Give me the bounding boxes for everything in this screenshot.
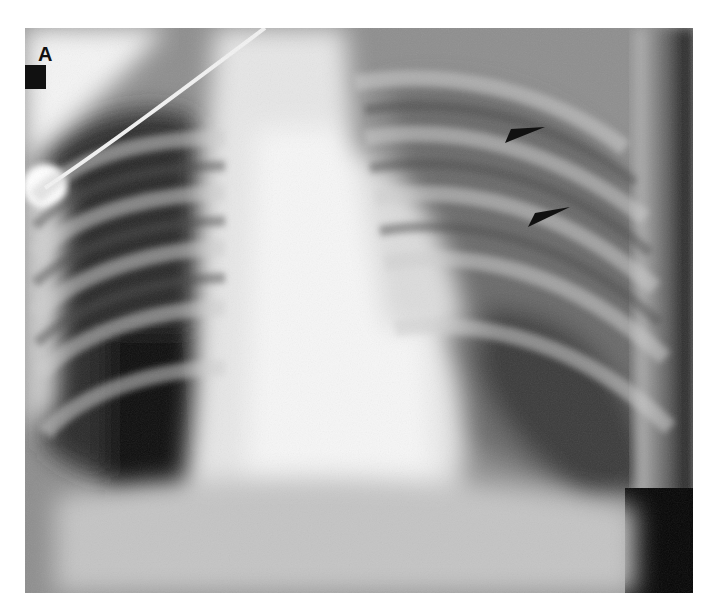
panel-label: A bbox=[38, 43, 52, 66]
orientation-marker bbox=[25, 65, 46, 89]
radiograph-rendering bbox=[25, 28, 693, 593]
chest-radiograph: A bbox=[25, 28, 693, 593]
